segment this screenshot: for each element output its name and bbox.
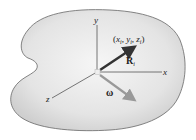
origin-point — [95, 70, 100, 75]
y-axis-label: y — [93, 15, 98, 25]
point-coordinates-label: (xi, yi, zi) — [113, 34, 145, 45]
rigid-body-diagram: y x z (xi, yi, zi) Ri ω — [0, 0, 196, 140]
z-axis-label: z — [45, 94, 50, 104]
x-axis-label: x — [162, 67, 167, 77]
angular-velocity-label: ω — [106, 87, 113, 98]
svg-text:(xi, yi, zi): (xi, yi, zi) — [113, 34, 145, 45]
